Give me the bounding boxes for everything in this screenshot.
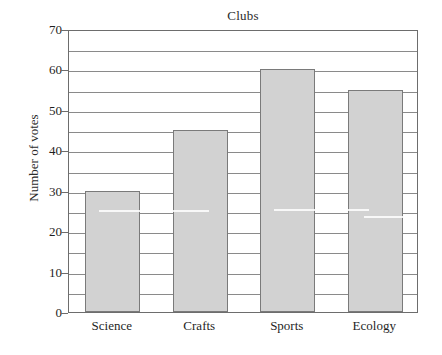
x-tick-label: Ecology xyxy=(329,318,419,334)
y-tick-mark xyxy=(61,151,68,152)
y-tick-label: 30 xyxy=(22,184,62,200)
y-tick-label: 70 xyxy=(22,22,62,38)
bar xyxy=(260,69,315,312)
y-tick-mark xyxy=(61,232,68,233)
x-tick-label: Sports xyxy=(242,318,332,334)
bar xyxy=(348,90,403,312)
x-tick-label: Science xyxy=(67,318,157,334)
y-tick-label: 10 xyxy=(22,265,62,281)
bar xyxy=(173,130,228,312)
y-tick-label: 40 xyxy=(22,143,62,159)
gridline xyxy=(69,51,417,52)
y-tick-mark xyxy=(61,111,68,112)
y-tick-mark xyxy=(61,313,68,314)
y-tick-label: 50 xyxy=(22,103,62,119)
y-tick-label: 0 xyxy=(22,305,62,321)
y-tick-mark xyxy=(61,192,68,193)
y-tick-mark xyxy=(61,30,68,31)
x-tick-label: Crafts xyxy=(154,318,244,334)
y-tick-label: 20 xyxy=(22,224,62,240)
y-tick-label: 60 xyxy=(22,62,62,78)
gridline xyxy=(69,71,417,72)
y-tick-mark xyxy=(61,273,68,274)
bar xyxy=(85,191,140,312)
plot-area xyxy=(68,30,418,313)
y-tick-mark xyxy=(61,70,68,71)
bar-chart: Clubs Number of votes 010203040506070 Sc… xyxy=(0,0,442,355)
